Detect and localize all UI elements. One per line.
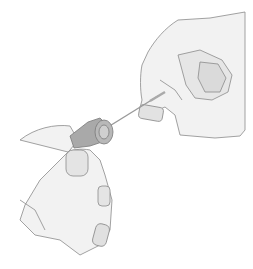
illustration: Pencil illustration of two hands: one ha… — [0, 0, 253, 269]
needle-cap — [70, 118, 113, 148]
right-hand — [138, 12, 245, 138]
left-hand — [20, 126, 112, 255]
